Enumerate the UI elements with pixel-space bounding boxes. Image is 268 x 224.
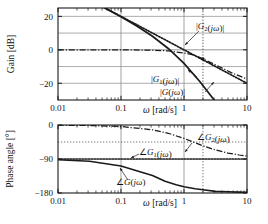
gain-xtick-10: 10 xyxy=(243,103,253,113)
phase-leader-G1-arrow xyxy=(131,156,134,158)
gain-ytick--20: −20 xyxy=(39,79,54,89)
gain-xaxis-title: ω [rad/s] xyxy=(143,105,177,115)
gain-label-G2: |G2(jω)| xyxy=(196,21,224,33)
gain-gridlines xyxy=(58,8,247,100)
phase-curve-G xyxy=(58,160,247,193)
gain-ytick-20: 20 xyxy=(44,12,54,22)
phase-xtick-0.01: 0.01 xyxy=(50,196,66,206)
gain-plot-frame xyxy=(58,8,247,100)
gain-curve-G xyxy=(58,0,247,145)
phase-xtick-0.1: 0.1 xyxy=(115,196,126,206)
phase-axis-title: Phase angle [°] xyxy=(5,130,15,188)
gain-label-G: |G(jω)| xyxy=(160,87,185,97)
phase-label-G2: ∠G2(jω) xyxy=(197,132,230,144)
bode-plot-figure: −200200−90−1800.010.11100.010.1110Gain [… xyxy=(0,0,268,224)
phase-ytick--90: −90 xyxy=(39,154,54,164)
gain-curves xyxy=(58,0,247,145)
gain-axis-title: Gain [dB] xyxy=(6,35,16,73)
phase-label-G: ∠G(jω) xyxy=(116,177,145,187)
phase-ytick-0: 0 xyxy=(49,120,54,130)
gain-minor-ticks xyxy=(58,8,247,100)
phase-xaxis-title: ω [rad/s] xyxy=(143,198,177,208)
bode-plot-svg: −200200−90−1800.010.11100.010.1110Gain [… xyxy=(0,0,268,224)
gain-xtick-0.1: 0.1 xyxy=(115,103,126,113)
phase-label-G1: ∠G1(jω) xyxy=(139,147,172,159)
gain-curve-G1 xyxy=(58,0,247,83)
gain-marker-dot xyxy=(201,57,204,60)
phase-xtick-1: 1 xyxy=(182,196,187,206)
gain-label-G1: |G1(jω)| xyxy=(151,74,179,86)
gain-xtick-0.01: 0.01 xyxy=(50,103,66,113)
gain-ytick-0: 0 xyxy=(49,45,54,55)
phase-xtick-10: 10 xyxy=(243,196,253,206)
gain-xtick-1: 1 xyxy=(182,103,187,113)
